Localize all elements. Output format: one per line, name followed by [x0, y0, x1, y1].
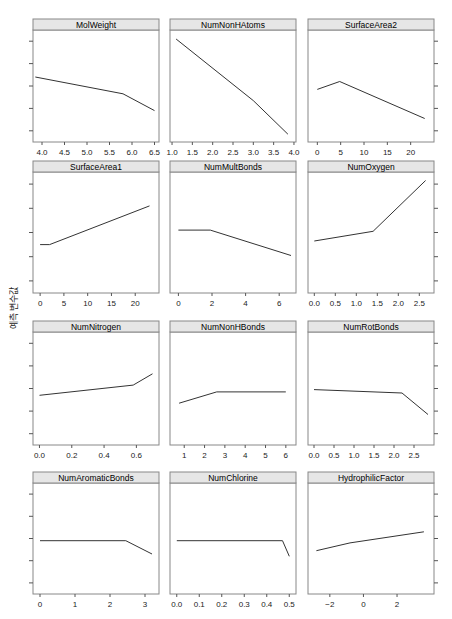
- x-tick-label: 3: [143, 600, 148, 609]
- panel-title: NumRotBonds: [343, 322, 398, 332]
- x-tick-label: 3: [223, 451, 228, 460]
- x-tick-label: 0.4: [261, 600, 273, 609]
- x-tick-label: 1: [73, 600, 78, 609]
- panel-NumChlorine: NumChlorine0.00.10.20.30.40.5: [170, 472, 296, 609]
- x-tick-label: 2: [210, 299, 215, 308]
- plot-area: [33, 483, 159, 594]
- x-tick-label: 4: [243, 451, 248, 460]
- x-tick-label: 15: [383, 148, 392, 157]
- x-tick-label: 1.0: [166, 148, 178, 157]
- x-tick-label: 20: [131, 299, 140, 308]
- y-axis-label: 예측 변수값: [8, 287, 19, 330]
- x-tick-label: 1.0: [351, 299, 363, 308]
- x-tick-label: 0.2: [216, 600, 228, 609]
- x-tick-label: 0.0: [34, 451, 46, 460]
- x-tick-label: 20: [406, 148, 415, 157]
- panel-title: SurfaceArea1: [70, 162, 122, 172]
- panel-NumOxygen: NumOxygen0.00.51.01.52.02.5: [308, 161, 438, 308]
- plot-area: [308, 332, 434, 445]
- x-tick-label: 0: [315, 148, 320, 157]
- x-tick-label: 6.0: [126, 148, 138, 157]
- panel-NumRotBonds: NumRotBonds0.00.51.01.52.02.5: [308, 321, 438, 460]
- panel-NumNonHAtoms: NumNonHAtoms1.01.52.02.53.03.54.0: [166, 19, 300, 157]
- panel-title: SurfaceArea2: [345, 20, 397, 30]
- panel-title: NumAromaticBonds: [58, 473, 134, 483]
- panel-title: NumOxygen: [347, 162, 395, 172]
- plot-area: [170, 483, 296, 594]
- x-tick-label: 5: [338, 148, 343, 157]
- panel-SurfaceArea1: SurfaceArea105101520: [29, 161, 159, 308]
- x-tick-label: 0: [176, 299, 181, 308]
- x-tick-label: 6: [284, 451, 289, 460]
- plot-area: [33, 172, 159, 293]
- x-tick-label: 0.2: [66, 451, 78, 460]
- x-tick-label: 4.5: [59, 148, 71, 157]
- x-tick-label: 4: [243, 299, 248, 308]
- x-tick-label: 5: [62, 299, 67, 308]
- x-tick-label: 4.0: [36, 148, 48, 157]
- panel-title: NumNonHBonds: [201, 322, 265, 332]
- panels-grid: MolWeight4.04.55.05.56.06.5NumNonHAtoms1…: [29, 19, 438, 609]
- x-tick-label: 15: [107, 299, 116, 308]
- panel-NumAromaticBonds: NumAromaticBonds0123: [29, 472, 159, 609]
- x-tick-label: 5: [263, 451, 268, 460]
- x-tick-label: 0.3: [239, 600, 251, 609]
- x-tick-label: 2.0: [388, 451, 400, 460]
- x-tick-label: 0.0: [171, 600, 183, 609]
- x-tick-label: 1.5: [187, 148, 199, 157]
- panel-NumNonHBonds: NumNonHBonds123456: [170, 321, 296, 460]
- panel-NumMultBonds: NumMultBonds0246: [170, 161, 296, 308]
- x-tick-label: 1: [182, 451, 187, 460]
- panel-title: NumNitrogen: [71, 322, 121, 332]
- plot-area: [170, 172, 296, 293]
- plot-area: [170, 30, 296, 142]
- plot-area: [33, 30, 159, 142]
- x-tick-label: 1.5: [372, 299, 384, 308]
- x-tick-label: 5.5: [104, 148, 116, 157]
- x-tick-label: 2.5: [227, 148, 239, 157]
- x-tick-label: 0.6: [131, 451, 143, 460]
- x-tick-label: 2.5: [414, 299, 426, 308]
- panel-title: MolWeight: [76, 20, 117, 30]
- x-tick-label: 2.5: [408, 451, 420, 460]
- panel-title: NumMultBonds: [204, 162, 262, 172]
- x-tick-label: 0.5: [284, 600, 296, 609]
- x-tick-label: 2.0: [207, 148, 219, 157]
- x-tick-label: 0: [361, 600, 366, 609]
- x-tick-label: 0.0: [309, 299, 321, 308]
- x-tick-label: 1.0: [348, 451, 360, 460]
- panel-title: HydrophilicFactor: [338, 473, 404, 483]
- x-tick-label: 2: [395, 600, 400, 609]
- x-tick-label: 2.0: [393, 299, 405, 308]
- panel-title: NumChlorine: [208, 473, 258, 483]
- x-tick-label: 3.0: [248, 148, 260, 157]
- x-tick-label: 0.0: [308, 451, 320, 460]
- x-tick-label: 0.4: [99, 451, 111, 460]
- x-tick-label: 10: [83, 299, 92, 308]
- x-tick-label: 4.0: [288, 148, 300, 157]
- x-tick-label: 10: [360, 148, 369, 157]
- x-tick-label: 6.5: [149, 148, 161, 157]
- x-tick-label: 6: [277, 299, 282, 308]
- x-tick-label: 0.5: [330, 299, 342, 308]
- x-tick-label: 2: [202, 451, 207, 460]
- x-tick-label: −2: [325, 600, 335, 609]
- x-tick-label: 3.5: [268, 148, 280, 157]
- plot-area: [308, 483, 434, 594]
- partial-dependence-chart: 예측 변수값 MolWeight4.04.55.05.56.06.5NumNon…: [0, 0, 452, 619]
- x-tick-label: 2: [108, 600, 113, 609]
- x-tick-label: 0.1: [194, 600, 206, 609]
- x-tick-label: 0.5: [328, 451, 340, 460]
- x-tick-label: 5.0: [81, 148, 93, 157]
- x-tick-label: 1.5: [368, 451, 380, 460]
- x-tick-label: 0: [38, 600, 43, 609]
- panel-SurfaceArea2: SurfaceArea205101520: [308, 19, 438, 157]
- panel-NumNitrogen: NumNitrogen0.00.20.40.6: [29, 321, 159, 460]
- panel-title: NumNonHAtoms: [201, 20, 265, 30]
- plot-area: [170, 332, 296, 445]
- x-tick-label: 0: [38, 299, 43, 308]
- plot-area: [33, 332, 159, 445]
- panel-MolWeight: MolWeight4.04.55.05.56.06.5: [29, 19, 161, 157]
- panel-HydrophilicFactor: HydrophilicFactor−202: [308, 472, 438, 609]
